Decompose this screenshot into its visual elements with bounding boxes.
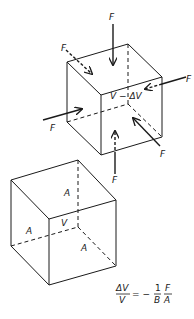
top-face xyxy=(67,44,162,95)
edge-bottom-right xyxy=(49,266,116,285)
edge-bottom-left xyxy=(11,246,49,285)
formula-rhs-numerator: F xyxy=(165,283,171,293)
force-label-top: F xyxy=(109,12,115,22)
bulk-modulus-formula: ΔV V = − 1 B F A xyxy=(115,283,172,305)
force-label-left: F xyxy=(50,123,56,133)
formula-equals: = − xyxy=(132,289,150,299)
force-arrow-right-outside xyxy=(162,77,186,84)
force-label-bottom: F xyxy=(112,175,118,185)
force-label-front-right: F xyxy=(160,149,166,159)
hidden-edge-back xyxy=(67,104,128,122)
force-label-right: F xyxy=(186,74,192,84)
hidden-edge-back xyxy=(11,227,78,246)
edge-bottom-left xyxy=(67,122,101,155)
original-cube: A A A V xyxy=(11,160,116,285)
force-label-back-left: F xyxy=(61,43,67,53)
edge-bottom-right xyxy=(101,137,162,155)
face-label-back: A xyxy=(63,188,70,198)
volume-label-compressed: V − ΔV xyxy=(110,91,143,101)
volume-label-original: V xyxy=(61,218,68,228)
formula-lhs-denominator: V xyxy=(119,295,126,305)
force-arrow-right xyxy=(145,84,162,89)
face-label-left: A xyxy=(25,226,32,236)
force-arrow-back-left xyxy=(66,50,92,74)
force-arrow-left xyxy=(43,109,82,120)
formula-lhs-numerator: ΔV xyxy=(115,283,129,293)
formula-coef-numerator: 1 xyxy=(155,283,161,293)
formula-coef-denominator: B xyxy=(154,295,160,305)
hidden-edge-right xyxy=(128,104,162,137)
bulk-modulus-diagram: V − ΔV F F F F F F A A xyxy=(0,0,194,319)
formula-rhs-denominator: A xyxy=(163,295,170,305)
face-label-bottom: A xyxy=(80,243,87,253)
